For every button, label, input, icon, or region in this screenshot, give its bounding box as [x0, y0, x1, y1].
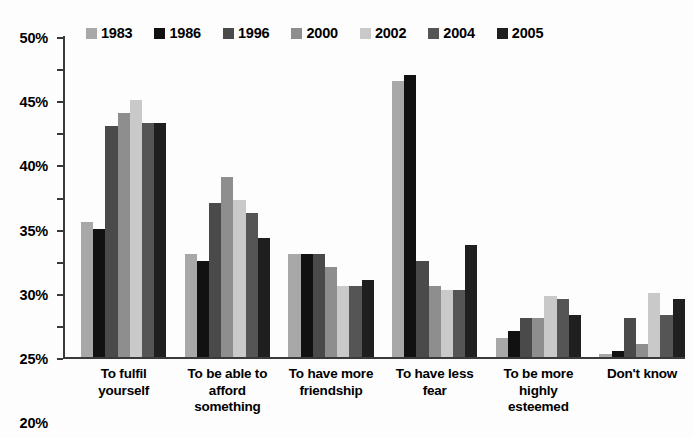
x-axis-category-labels: To fulfilyourselfTo be able toaffordsome…: [65, 366, 685, 436]
bar-1986[interactable]: [404, 75, 416, 357]
y-tick-mark: 30%: [57, 165, 63, 167]
bar-2005[interactable]: [465, 245, 477, 357]
bar-group: [392, 36, 477, 357]
bar-1996[interactable]: [209, 203, 221, 357]
bar-1983[interactable]: [81, 222, 93, 357]
plot-area: 50%45%40%35%30%25%20%15%10%5%0%: [63, 36, 685, 359]
y-tick-mark: 5%: [57, 326, 63, 328]
bar-2000[interactable]: [429, 286, 441, 357]
bar-2002[interactable]: [441, 290, 453, 357]
bar-2000[interactable]: [636, 344, 648, 357]
bar-group: [185, 36, 270, 357]
bar-2004[interactable]: [349, 286, 361, 357]
bar-1996[interactable]: [624, 318, 636, 357]
x-category-label-line: something: [174, 399, 282, 416]
x-category-label: Don't know: [588, 366, 693, 383]
bar-2004[interactable]: [660, 315, 672, 357]
bar-2002[interactable]: [544, 296, 556, 357]
bar-2004[interactable]: [453, 290, 465, 357]
bar-2002[interactable]: [130, 100, 142, 357]
y-tick-label: 25%: [20, 351, 48, 367]
bar-2000[interactable]: [325, 267, 337, 357]
bar-1996[interactable]: [105, 126, 117, 357]
bar-1983[interactable]: [392, 81, 404, 357]
bar-group: [81, 36, 166, 357]
y-tick-mark: 50%: [57, 37, 63, 39]
y-tick-label: 50%: [20, 30, 48, 46]
bar-1983[interactable]: [599, 354, 611, 357]
bar-2000[interactable]: [221, 177, 233, 357]
bar-2002[interactable]: [648, 293, 660, 357]
bar-1996[interactable]: [416, 261, 428, 357]
x-category-label-line: yourself: [70, 383, 178, 400]
x-category-label-line: To be able to: [174, 366, 282, 383]
y-tick-label: 40%: [20, 158, 48, 174]
bar-1996[interactable]: [313, 254, 325, 357]
x-category-label: To have morefriendship: [277, 366, 385, 399]
x-category-label-line: Don't know: [588, 366, 693, 383]
bar-2005[interactable]: [673, 299, 685, 357]
bar-2004[interactable]: [142, 123, 154, 357]
y-tick-label: 30%: [20, 287, 48, 303]
bar-group: [288, 36, 373, 357]
x-category-label-line: To have more: [277, 366, 385, 383]
bar-2005[interactable]: [362, 280, 374, 357]
bar-2002[interactable]: [233, 200, 245, 357]
bar-2002[interactable]: [337, 286, 349, 357]
y-tick-mark: 0%: [57, 358, 63, 360]
bar-chart: 1983198619962000200220042005 50%45%40%35…: [0, 0, 693, 438]
bar-1983[interactable]: [496, 338, 508, 357]
y-tick-mark: 20%: [57, 230, 63, 232]
y-tick-mark: 15%: [57, 262, 63, 264]
y-tick-mark: 10%: [57, 294, 63, 296]
x-category-label: To have lessfear: [381, 366, 489, 399]
bar-1996[interactable]: [520, 318, 532, 357]
x-category-label-line: friendship: [277, 383, 385, 400]
bar-2005[interactable]: [154, 123, 166, 357]
y-tick-label: 35%: [20, 223, 48, 239]
y-tick-mark: 35%: [57, 133, 63, 135]
x-category-label: To be able toaffordsomething: [174, 366, 282, 416]
y-tick-label: 20%: [20, 415, 48, 431]
bar-1986[interactable]: [612, 351, 624, 357]
bar-2005[interactable]: [569, 315, 581, 357]
bar-group: [496, 36, 581, 357]
x-category-label-line: To have less: [381, 366, 489, 383]
x-category-label-line: To be more: [485, 366, 593, 383]
y-tick-mark: 25%: [57, 198, 63, 200]
bar-1986[interactable]: [301, 254, 313, 357]
bars-layer: [65, 36, 685, 357]
bar-2000[interactable]: [532, 318, 544, 357]
bar-group: [599, 36, 684, 357]
bar-1983[interactable]: [288, 254, 300, 357]
x-category-label: To fulfilyourself: [70, 366, 178, 399]
x-category-label-line: To fulfil: [70, 366, 178, 383]
x-category-label-line: highly: [485, 383, 593, 400]
bar-2005[interactable]: [258, 238, 270, 357]
x-category-label-line: esteemed: [485, 399, 593, 416]
y-tick-label: 45%: [20, 94, 48, 110]
x-axis-line: [63, 357, 685, 359]
x-category-label-line: afford: [174, 383, 282, 400]
bar-1983[interactable]: [185, 254, 197, 357]
bar-1986[interactable]: [508, 331, 520, 357]
y-tick-mark: 45%: [57, 69, 63, 71]
bar-1986[interactable]: [197, 261, 209, 357]
x-category-label: To be morehighlyesteemed: [485, 366, 593, 416]
bar-1986[interactable]: [93, 229, 105, 357]
bar-2000[interactable]: [118, 113, 130, 357]
bar-2004[interactable]: [557, 299, 569, 357]
x-category-label-line: fear: [381, 383, 489, 400]
bar-2004[interactable]: [246, 213, 258, 357]
y-tick-mark: 40%: [57, 101, 63, 103]
